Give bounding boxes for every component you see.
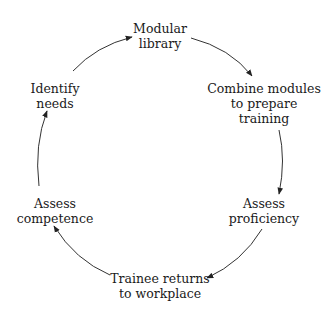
node-label-line: library: [133, 36, 187, 51]
node-label-line: to workplace: [110, 286, 209, 301]
node-label-line: Assess: [229, 196, 299, 211]
arrow-trainee-to-competence: [54, 226, 110, 275]
node-assess-competence: Assess competence: [17, 196, 94, 226]
node-label-line: Identify: [30, 81, 79, 96]
training-cycle-diagram: Modular library Combine modules to prepa…: [0, 0, 331, 314]
node-modular-library: Modular library: [133, 21, 187, 51]
node-combine-modules: Combine modules to prepare training: [207, 81, 321, 126]
node-label-line: training: [207, 111, 321, 126]
arrow-competence-to-identify: [38, 111, 47, 186]
arrow-combine-to-proficiency: [279, 130, 283, 194]
node-trainee-returns: Trainee returns to workplace: [110, 271, 209, 301]
node-label-line: Modular: [133, 21, 187, 36]
arrow-identify-to-library: [73, 37, 132, 71]
node-identify-needs: Identify needs: [30, 81, 79, 111]
node-label-line: to prepare: [207, 96, 321, 111]
node-label-line: needs: [30, 96, 79, 111]
arrow-library-to-combine: [191, 38, 252, 76]
node-label-line: competence: [17, 211, 94, 226]
node-label-line: Combine modules: [207, 81, 321, 96]
node-label-line: Assess: [17, 196, 94, 211]
node-label-line: proficiency: [229, 211, 299, 226]
arrow-proficiency-to-trainee: [207, 229, 262, 278]
node-assess-proficiency: Assess proficiency: [229, 196, 299, 226]
node-label-line: Trainee returns: [110, 271, 209, 286]
